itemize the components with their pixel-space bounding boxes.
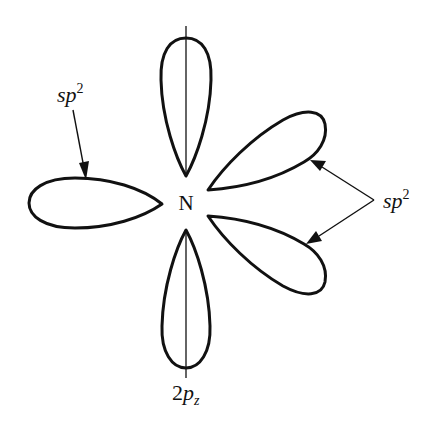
arrowhead-sp2-lower-right xyxy=(306,231,322,244)
arrow-sp2-lower-right xyxy=(319,200,374,236)
sp2-left-lobe xyxy=(29,178,162,228)
nitrogen-atom-label: N xyxy=(178,191,193,215)
arrowhead-sp2-upper-right xyxy=(310,160,326,171)
arrow-sp2-left xyxy=(73,110,84,168)
nitrogen-orbital-diagram: N sp2 sp2 2pz xyxy=(0,0,435,422)
sp2-upper-right-lobe xyxy=(208,112,326,190)
sp2-lower-right-lobe xyxy=(208,216,326,294)
sp2-label-left: sp2 xyxy=(57,81,84,107)
arrow-sp2-upper-right xyxy=(322,167,374,200)
sp2-label-right: sp2 xyxy=(383,187,410,213)
2pz-label: 2pz xyxy=(172,380,200,408)
